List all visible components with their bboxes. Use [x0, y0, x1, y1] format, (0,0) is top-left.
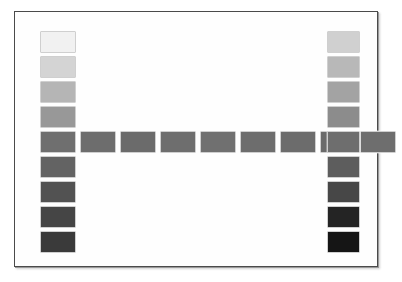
patch-middle-row-3: [160, 131, 196, 153]
patch-middle-row-8: [360, 131, 396, 153]
patch-swatch: [161, 132, 195, 152]
patch-middle-row-4: [200, 131, 236, 153]
patch-left-column-7: [40, 181, 76, 203]
patch-swatch: [81, 132, 115, 152]
patch-middle-row-6: [280, 131, 316, 153]
patch-swatch: [201, 132, 235, 152]
patch-right-column-4: [327, 106, 360, 128]
patch-right-column-1: [327, 31, 360, 53]
patch-right-column-8: [327, 206, 360, 228]
patch-left-column-9: [40, 231, 76, 253]
patch-middle-row-1: [80, 131, 116, 153]
patch-swatch: [41, 157, 75, 177]
patch-swatch: [41, 132, 75, 152]
patch-swatch: [328, 132, 359, 152]
patch-swatch: [328, 82, 359, 102]
patch-left-column-3: [40, 81, 76, 103]
patch-swatch: [241, 132, 275, 152]
patch-swatch: [281, 132, 315, 152]
patch-swatch: [41, 82, 75, 102]
patch-layer: [0, 0, 402, 282]
patch-swatch: [328, 57, 359, 77]
patch-left-column-5: [40, 131, 76, 153]
patch-swatch: [328, 207, 359, 227]
patch-middle-row-2: [120, 131, 156, 153]
patch-left-column-1: [40, 31, 76, 53]
patch-swatch: [121, 132, 155, 152]
patch-swatch: [328, 232, 359, 252]
grayscale-calibration-chart: [0, 0, 402, 282]
patch-right-column-9: [327, 231, 360, 253]
patch-left-column-6: [40, 156, 76, 178]
patch-swatch: [41, 107, 75, 127]
patch-swatch: [328, 157, 359, 177]
patch-swatch: [41, 232, 75, 252]
patch-swatch: [328, 32, 359, 52]
patch-right-column-5: [327, 131, 360, 153]
patch-middle-row-5: [240, 131, 276, 153]
patch-swatch: [361, 132, 395, 152]
patch-left-column-8: [40, 206, 76, 228]
patch-left-column-2: [40, 56, 76, 78]
patch-right-column-3: [327, 81, 360, 103]
patch-swatch: [41, 32, 75, 52]
patch-swatch: [41, 207, 75, 227]
patch-right-column-7: [327, 181, 360, 203]
patch-right-column-6: [327, 156, 360, 178]
patch-swatch: [328, 107, 359, 127]
patch-swatch: [328, 182, 359, 202]
patch-right-column-2: [327, 56, 360, 78]
patch-swatch: [41, 57, 75, 77]
patch-swatch: [41, 182, 75, 202]
patch-left-column-4: [40, 106, 76, 128]
